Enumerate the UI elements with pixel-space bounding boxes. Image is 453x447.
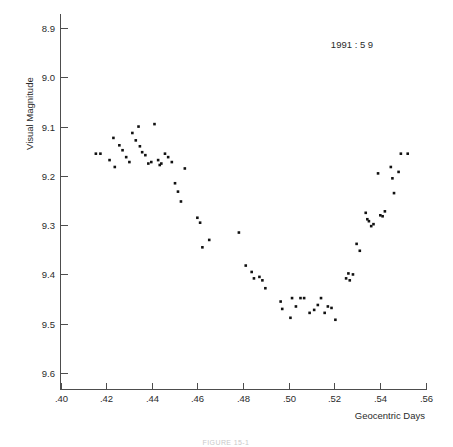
- date-annotation: 1991 : 5 9: [331, 39, 373, 50]
- data-point: [379, 214, 382, 217]
- x-axis-ticks: .40.42.44.46.48.50.52.54.56: [55, 383, 433, 405]
- data-point: [95, 152, 98, 155]
- data-point: [144, 154, 147, 157]
- x-tick-label: .54: [374, 393, 387, 404]
- data-point: [289, 317, 292, 320]
- data-point: [390, 166, 393, 169]
- data-point: [108, 159, 111, 162]
- data-point-layer: [95, 123, 409, 321]
- data-point: [180, 200, 183, 203]
- y-tick-label: 9.2: [42, 171, 55, 182]
- y-tick-label: 9.5: [42, 319, 55, 330]
- data-point: [364, 212, 367, 215]
- data-point: [327, 305, 330, 308]
- x-tick-label: .48: [237, 393, 250, 404]
- data-point: [141, 151, 144, 154]
- data-point: [131, 132, 134, 135]
- y-tick-label: 9.6: [42, 368, 55, 379]
- data-point: [125, 156, 128, 159]
- data-point: [381, 215, 384, 218]
- data-point: [313, 309, 316, 312]
- data-point: [391, 177, 394, 180]
- data-point: [370, 225, 373, 228]
- data-point: [174, 182, 177, 185]
- data-point: [164, 152, 167, 155]
- data-point: [177, 190, 180, 193]
- data-point: [137, 125, 140, 128]
- data-point: [352, 273, 355, 276]
- data-point: [99, 152, 102, 155]
- data-point: [295, 305, 298, 308]
- data-point: [359, 249, 362, 252]
- data-point: [250, 271, 253, 274]
- data-point: [160, 162, 163, 165]
- data-point: [171, 161, 174, 164]
- data-point: [238, 231, 241, 234]
- data-point: [134, 139, 137, 142]
- data-point: [281, 308, 284, 311]
- data-point: [308, 312, 311, 315]
- data-point: [323, 312, 326, 315]
- data-point: [112, 137, 115, 140]
- data-point: [128, 161, 131, 164]
- data-point: [258, 276, 261, 279]
- data-point: [348, 279, 351, 282]
- data-point: [355, 243, 358, 246]
- x-tick-label: .42: [100, 393, 113, 404]
- x-tick-label: .52: [328, 393, 341, 404]
- data-point: [400, 152, 403, 155]
- y-axis-ticks: 8.99.09.19.29.39.49.59.6: [42, 23, 68, 379]
- data-point: [150, 161, 153, 164]
- data-point: [330, 307, 333, 310]
- data-point: [372, 223, 375, 226]
- data-point: [139, 145, 142, 148]
- data-point: [167, 156, 170, 159]
- data-point: [397, 171, 400, 174]
- data-point: [118, 144, 121, 147]
- x-tick-label: .40: [55, 393, 68, 404]
- data-point: [147, 162, 150, 165]
- x-axis-title: Geocentric Days: [355, 410, 425, 421]
- data-point: [303, 297, 306, 300]
- x-tick-label: .50: [283, 393, 296, 404]
- data-point: [261, 279, 264, 282]
- data-point: [377, 172, 380, 175]
- data-point: [199, 221, 202, 224]
- data-point: [121, 149, 124, 152]
- y-tick-label: 9.1: [42, 122, 55, 133]
- x-tick-label: .44: [146, 393, 159, 404]
- y-tick-label: 9.3: [42, 220, 55, 231]
- data-point: [244, 264, 247, 267]
- data-point: [253, 277, 256, 280]
- light-curve-scatter-plot: 8.99.09.19.29.39.49.59.6 .40.42.44.46.48…: [0, 0, 453, 447]
- data-point: [393, 192, 396, 195]
- x-tick-label: .56: [420, 393, 433, 404]
- figure-caption: FIGURE 15-1: [203, 439, 250, 446]
- data-point: [368, 220, 371, 223]
- data-point: [157, 159, 160, 162]
- y-tick-label: 9.4: [42, 269, 55, 280]
- data-point: [279, 300, 282, 303]
- y-tick-label: 8.9: [42, 23, 55, 34]
- plot-axes: [61, 14, 426, 390]
- x-tick-label: .46: [191, 393, 204, 404]
- data-point: [208, 239, 211, 242]
- data-point: [345, 277, 348, 280]
- data-point: [406, 152, 409, 155]
- data-point: [384, 210, 387, 213]
- data-point: [113, 166, 116, 169]
- y-tick-label: 9.0: [42, 72, 55, 83]
- data-point: [347, 272, 350, 275]
- data-point: [320, 297, 323, 300]
- data-point: [334, 318, 337, 321]
- figure-container: 8.99.09.19.29.39.49.59.6 .40.42.44.46.48…: [0, 0, 453, 447]
- data-point: [264, 287, 267, 290]
- data-point: [299, 297, 302, 300]
- y-axis-title: Visual Magnitude: [24, 77, 35, 150]
- data-point: [196, 216, 199, 219]
- data-point: [291, 297, 294, 300]
- data-point: [153, 123, 156, 126]
- data-point: [201, 246, 204, 249]
- data-point: [184, 167, 187, 170]
- data-point: [317, 304, 320, 307]
